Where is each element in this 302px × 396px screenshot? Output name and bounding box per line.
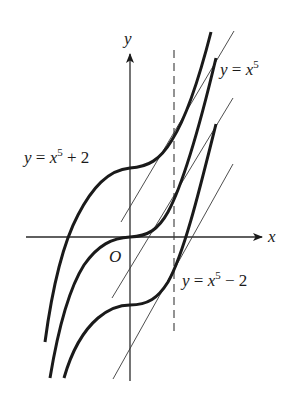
label-curve-x5-plus-2: y = x5 + 2 — [22, 146, 89, 167]
function-graph-diagram: y x O y = x5 + 2 y = x5 y = x5 − 2 — [0, 0, 302, 396]
y-axis-label: y — [122, 29, 132, 48]
label-curve-x5: y = x5 — [218, 58, 259, 79]
x-axis-label: x — [267, 227, 276, 246]
origin-label: O — [109, 247, 121, 266]
label-curve-x5-minus-2: y = x5 − 2 — [180, 269, 247, 290]
